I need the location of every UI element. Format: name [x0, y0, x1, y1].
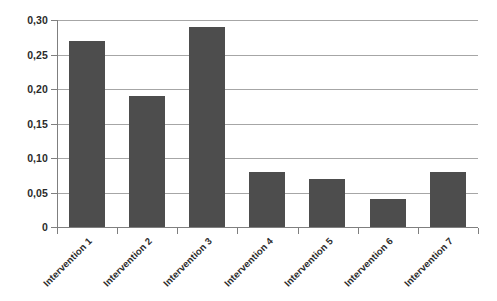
x-tick-label-intervention-6: Intervention 6: [326, 236, 394, 301]
bar-chart: 0,30 0,25 0,20 0,15 0,10 0,05 0 Interven…: [0, 0, 497, 301]
x-tick-label-intervention-3: Intervention 3: [145, 236, 213, 301]
x-tick-label-intervention-7: Intervention 7: [386, 236, 454, 301]
x-tick-label-intervention-4: Intervention 4: [206, 236, 274, 301]
x-tick-label-intervention-1: Intervention 1: [25, 236, 93, 301]
x-tick-label-intervention-2: Intervention 2: [85, 236, 153, 301]
x-axis-tick-labels: Intervention 1 Intervention 2 Interventi…: [0, 0, 497, 301]
x-tick-label-intervention-5: Intervention 5: [266, 236, 334, 301]
